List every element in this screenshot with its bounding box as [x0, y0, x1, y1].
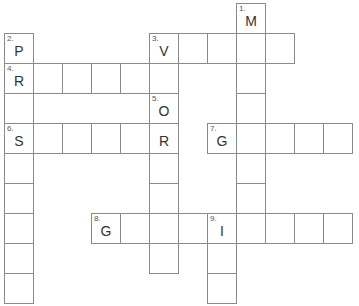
crossword-cell[interactable]: 9.I [207, 213, 237, 244]
crossword-cell[interactable] [265, 213, 295, 244]
crossword-cell[interactable] [62, 123, 92, 154]
crossword-cell[interactable] [178, 33, 208, 64]
crossword-cell[interactable] [236, 123, 266, 154]
crossword-cell[interactable] [323, 213, 353, 244]
crossword-cell[interactable] [120, 213, 150, 244]
crossword-cell[interactable] [4, 183, 34, 214]
crossword-cell[interactable] [178, 213, 208, 244]
crossword-cell[interactable] [62, 63, 92, 94]
crossword-cell[interactable] [4, 93, 34, 124]
crossword-cell[interactable] [207, 243, 237, 274]
crossword-cell[interactable] [149, 243, 179, 274]
crossword-cell[interactable] [207, 33, 237, 64]
cell-letter: S [5, 132, 33, 150]
crossword-cell[interactable]: 5.O [149, 93, 179, 124]
cell-letter: I [208, 222, 236, 240]
crossword-cell[interactable] [4, 153, 34, 184]
crossword-cell[interactable] [294, 213, 324, 244]
crossword-cell[interactable] [207, 273, 237, 304]
crossword-cell[interactable] [33, 123, 63, 154]
crossword-cell[interactable] [4, 243, 34, 274]
crossword-cell[interactable] [236, 153, 266, 184]
crossword-cell[interactable] [91, 63, 121, 94]
crossword-cell[interactable]: 1.M [236, 3, 266, 34]
crossword-cell[interactable] [236, 213, 266, 244]
cell-letter: V [150, 42, 178, 60]
crossword-cell[interactable] [294, 123, 324, 154]
crossword-cell[interactable]: 7.G [207, 123, 237, 154]
crossword-cell[interactable] [120, 123, 150, 154]
crossword-cell[interactable]: 3.V [149, 33, 179, 64]
crossword-cell[interactable] [149, 153, 179, 184]
cell-letter: P [5, 42, 33, 60]
cell-letter: O [150, 102, 178, 120]
crossword-grid: 1.M2.P4.R6.S3.V5.OR7.G8.G9.I [0, 0, 359, 306]
crossword-cell[interactable] [236, 93, 266, 124]
crossword-cell[interactable] [323, 123, 353, 154]
crossword-cell[interactable] [149, 213, 179, 244]
cell-letter: G [208, 132, 236, 150]
crossword-cell[interactable] [236, 63, 266, 94]
crossword-cell[interactable]: 4.R [4, 63, 34, 94]
cell-letter: R [5, 72, 33, 90]
crossword-cell[interactable] [236, 183, 266, 214]
cell-letter: R [150, 132, 178, 150]
crossword-cell[interactable]: 8.G [91, 213, 121, 244]
crossword-cell[interactable] [91, 123, 121, 154]
crossword-cell[interactable] [236, 33, 266, 64]
crossword-cell[interactable] [4, 213, 34, 244]
crossword-cell[interactable]: R [149, 123, 179, 154]
crossword-cell[interactable] [265, 33, 295, 64]
crossword-cell[interactable] [265, 123, 295, 154]
crossword-cell[interactable]: 6.S [4, 123, 34, 154]
crossword-cell[interactable] [149, 183, 179, 214]
cell-letter: M [237, 12, 265, 30]
crossword-cell[interactable] [120, 63, 150, 94]
crossword-cell[interactable]: 2.P [4, 33, 34, 64]
crossword-cell[interactable] [4, 273, 34, 304]
cell-letter: G [92, 222, 120, 240]
crossword-cell[interactable] [33, 63, 63, 94]
crossword-cell[interactable] [149, 63, 179, 94]
